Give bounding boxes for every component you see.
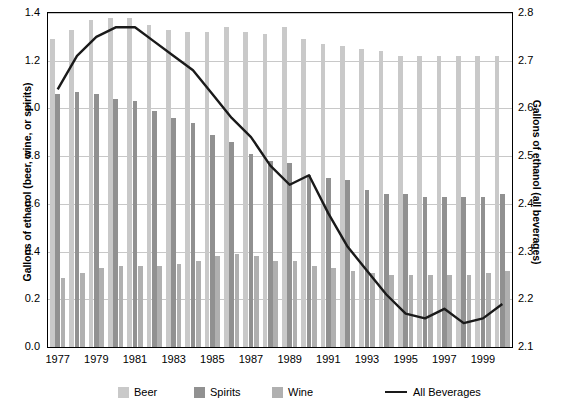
y-axis-right-tick-label: 2.1 xyxy=(518,340,558,352)
legend-swatch-line-icon xyxy=(385,391,407,393)
x-axis-tick-label: 1997 xyxy=(422,353,466,365)
legend-swatch-wine-icon xyxy=(272,387,283,398)
y-axis-left-tick-label: 1.4 xyxy=(0,6,40,18)
y-axis-right-tick-label: 2.8 xyxy=(518,6,558,18)
line-path xyxy=(58,27,503,323)
x-axis-tick-label: 1995 xyxy=(384,353,428,365)
x-axis-tick-label: 1977 xyxy=(36,353,80,365)
x-axis-tick-label: 1979 xyxy=(74,353,118,365)
legend-item-all-beverages[interactable]: All Beverages xyxy=(385,382,481,402)
legend-label: All Beverages xyxy=(413,386,481,398)
y-axis-right-title: Gallons of ethanol (all beverages) xyxy=(531,47,543,317)
y-axis-left-title: Gallons of ethanol (beer, wine, or spiri… xyxy=(21,47,33,317)
x-axis-tick-label: 1991 xyxy=(306,353,350,365)
y-axis-right-tick-label: 2.6 xyxy=(518,101,558,113)
legend-label: Beer xyxy=(134,386,157,398)
y-axis-left-tick-label: 0.0 xyxy=(0,340,40,352)
legend-swatch-spirits-icon xyxy=(194,387,205,398)
y-axis-right-tick-label: 2.7 xyxy=(518,54,558,66)
x-axis-tick-label: 1987 xyxy=(229,353,273,365)
legend-label: Spirits xyxy=(210,386,241,398)
chart-legend: BeerSpiritsWineAll Beverages xyxy=(0,382,564,404)
x-axis-tick-label: 1983 xyxy=(152,353,196,365)
legend-swatch-beer-icon xyxy=(118,387,129,398)
legend-item-spirits[interactable]: Spirits xyxy=(194,382,241,402)
legend-item-wine[interactable]: Wine xyxy=(272,382,313,402)
y-axis-left-tick-label: 0.8 xyxy=(0,149,40,161)
y-axis-left-tick-label: 0.4 xyxy=(0,245,40,257)
legend-label: Wine xyxy=(288,386,313,398)
y-axis-right-tick-label: 2.2 xyxy=(518,292,558,304)
x-axis-tick-label: 1999 xyxy=(461,353,505,365)
y-axis-right-tick-label: 2.3 xyxy=(518,245,558,257)
plot-area xyxy=(47,12,513,348)
y-axis-left-tick-label: 0.2 xyxy=(0,292,40,304)
y-axis-right-tick-label: 2.4 xyxy=(518,197,558,209)
x-axis-tick-label: 1989 xyxy=(268,353,312,365)
x-axis-tick-label: 1993 xyxy=(345,353,389,365)
y-axis-left-tick-label: 0.6 xyxy=(0,197,40,209)
legend-item-beer[interactable]: Beer xyxy=(118,382,157,402)
y-axis-left-tick-label: 1.0 xyxy=(0,101,40,113)
line-series-layer xyxy=(48,13,512,347)
x-axis-tick-label: 1985 xyxy=(190,353,234,365)
all-beverages-line xyxy=(48,13,512,347)
x-axis-tick-label: 1981 xyxy=(113,353,157,365)
y-axis-left-tick-label: 1.2 xyxy=(0,54,40,66)
y-axis-right-tick-label: 2.5 xyxy=(518,149,558,161)
chart-container: Gallons of ethanol (beer, wine, or spiri… xyxy=(0,0,564,409)
